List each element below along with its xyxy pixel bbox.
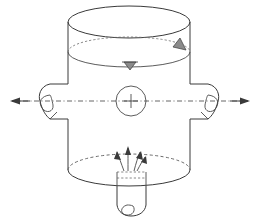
top-rim-ellipse — [68, 6, 190, 38]
level-marker-right — [173, 38, 186, 50]
bottom-outlet-nozzle — [117, 186, 146, 216]
bottom-front-arc — [68, 170, 190, 186]
right-side-nozzle — [190, 84, 219, 119]
left-flow-arrow — [10, 98, 30, 105]
jet-arrow-2 — [125, 146, 131, 171]
right-flow-arrow — [230, 98, 250, 105]
left-side-nozzle — [39, 84, 68, 119]
level-marker-front — [122, 62, 138, 70]
diagram-canvas — [0, 0, 260, 223]
sparger-jet-arrows — [114, 146, 147, 171]
vessel-diagram-svg — [0, 0, 260, 223]
bottom-sparger — [117, 172, 146, 186]
bottom-back-arc — [68, 154, 190, 170]
cylindrical-shell — [68, 6, 190, 186]
